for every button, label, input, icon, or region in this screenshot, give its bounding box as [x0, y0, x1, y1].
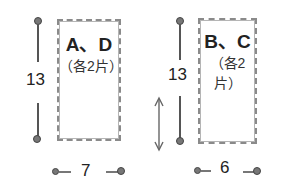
- height-line-top: [179, 24, 181, 60]
- pin-left-icon: [52, 168, 59, 175]
- pattern-piece-ad: A、D （各2片）: [57, 19, 121, 141]
- pin-bottom-icon: [33, 135, 41, 143]
- width-dimension: 7: [81, 161, 90, 181]
- height-dimension: 13: [168, 65, 187, 85]
- height-line-top: [37, 24, 39, 62]
- width-dimension: 6: [220, 158, 229, 178]
- pin-right-icon: [117, 167, 125, 175]
- height-line-bottom: [179, 96, 181, 138]
- height-line-bottom: [37, 103, 39, 137]
- pin-right-icon: [253, 167, 261, 175]
- width-line-left: [59, 171, 71, 173]
- grain-arrow-icon: [154, 97, 164, 151]
- pin-bottom-icon: [176, 137, 184, 145]
- height-dimension: 13: [26, 70, 45, 90]
- pin-left-icon: [194, 167, 201, 174]
- piece-quantity: （各2片）: [200, 52, 255, 92]
- piece-label: B、C: [200, 26, 255, 53]
- piece-quantity: （各2片）: [59, 55, 119, 75]
- piece-label: A、D: [59, 29, 119, 56]
- width-line-left: [201, 170, 211, 172]
- pattern-piece-bc: B、C （各2片）: [198, 18, 257, 144]
